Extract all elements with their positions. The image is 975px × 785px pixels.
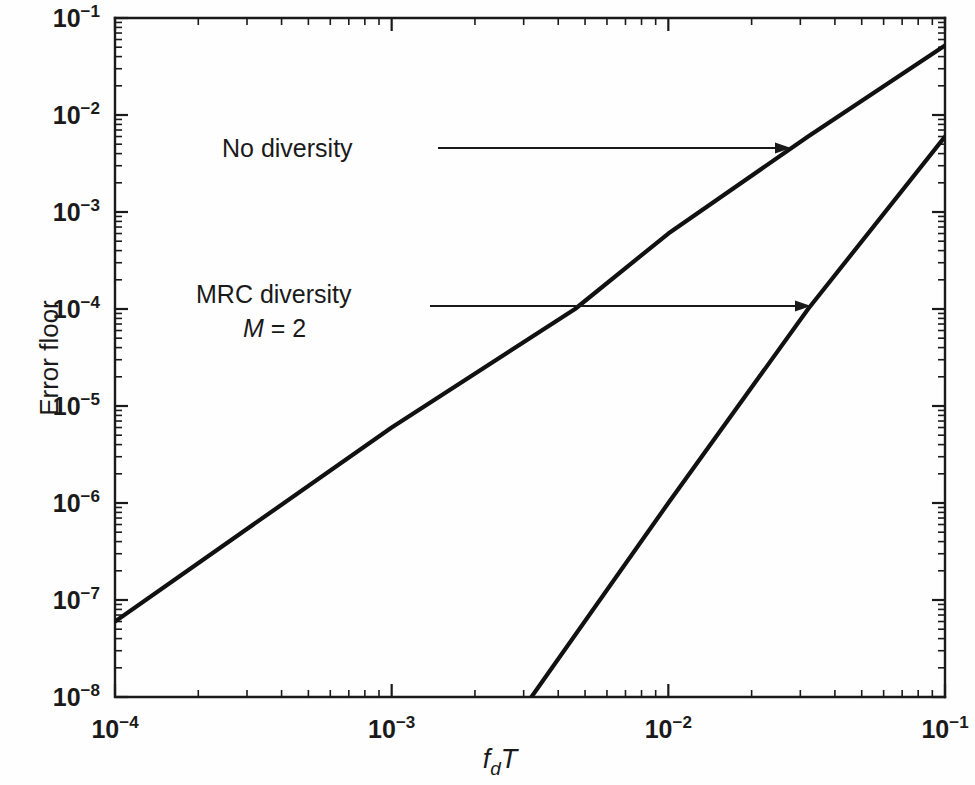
x-axis-title: fdT <box>483 744 520 779</box>
figure-background <box>0 0 975 785</box>
y-axis-title-text: Error floor <box>34 300 64 416</box>
figure-container: 10−110−210−310−410−510−610−710−8 10−410−… <box>0 0 975 785</box>
annotation-mrc-m-symbol: M <box>243 314 264 342</box>
annotation-mrc-diversity-label: MRC diversity <box>196 280 352 308</box>
log-log-error-floor-chart: 10−110−210−310−410−510−610−710−8 10−410−… <box>0 0 975 785</box>
annotation-mrc-diversity-sublabel: M = 2 <box>243 314 306 342</box>
annotation-no-diversity-label: No diversity <box>222 134 353 162</box>
x-axis-title-text: fdT <box>483 744 520 779</box>
y-axis-title: Error floor <box>34 300 64 416</box>
annotation-mrc-m-value: = 2 <box>264 314 306 342</box>
x-axis-title-tail: T <box>501 744 520 774</box>
